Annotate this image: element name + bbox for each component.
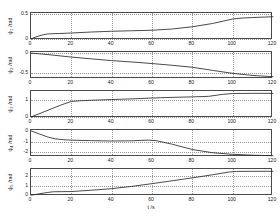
y-tick-label: 0 xyxy=(16,127,28,133)
y-axis-label-unit: /rad xyxy=(7,95,13,106)
data-series-psi4 xyxy=(31,130,273,157)
x-tick-label: 0 xyxy=(29,196,32,202)
y-tick-label: -0.5 xyxy=(16,69,28,75)
y-axis-label-psi1: ψ1 /rad xyxy=(7,17,14,34)
y-tick-label: 1 xyxy=(16,182,28,188)
x-tick-label: 80 xyxy=(188,196,194,202)
x-tick-label: 40 xyxy=(108,196,114,202)
y-tick-label: -2 xyxy=(16,148,28,154)
plot-area-psi3 xyxy=(30,90,272,117)
plot-area-psi2 xyxy=(30,51,272,78)
y-tick-label: 1 xyxy=(16,96,28,102)
x-tick-label: 100 xyxy=(227,196,236,202)
subplot-psi5: ψ5 /rad020406080100120012 xyxy=(0,158,280,207)
data-series-psi1 xyxy=(31,13,273,40)
x-tick-label: 20 xyxy=(67,196,73,202)
y-tick-label: 0 xyxy=(16,191,28,197)
data-series-psi3 xyxy=(31,91,273,118)
y-axis-label-psi2: ψ2 /rad xyxy=(7,56,14,73)
plot-area-psi4 xyxy=(30,129,272,156)
y-axis-label-psi4: ψ4 /rad xyxy=(7,134,14,151)
y-tick-label: 2 xyxy=(16,172,28,178)
y-axis-label-unit: /rad xyxy=(7,17,13,28)
plot-area-psi1 xyxy=(30,12,272,39)
y-axis-label-symbol: ψ xyxy=(7,147,13,151)
data-series-psi5 xyxy=(31,169,273,196)
y-axis-label-symbol: ψ xyxy=(7,108,13,112)
figure-canvas: ψ1 /rad02040608010012000.5ψ2 /rad0204060… xyxy=(0,0,280,224)
y-axis-label-symbol: ψ xyxy=(7,30,13,34)
y-axis-label-unit: /rad xyxy=(7,173,13,184)
y-axis-label-symbol: ψ xyxy=(7,186,13,190)
y-tick-label: 0 xyxy=(16,49,28,55)
y-axis-label-unit: /rad xyxy=(7,134,13,145)
y-axis-label-unit: /rad xyxy=(7,56,13,67)
y-tick-label: 0.5 xyxy=(16,10,28,16)
y-tick-label: -1 xyxy=(16,138,28,144)
data-series-psi2 xyxy=(31,52,273,79)
x-axis-label: t /s xyxy=(147,204,154,210)
plot-area-psi5 xyxy=(30,168,272,195)
x-tick-label: 120 xyxy=(268,196,277,202)
y-axis-label-symbol: ψ xyxy=(7,69,13,73)
y-axis-label-psi3: ψ3 /rad xyxy=(7,95,14,112)
y-axis-label-psi5: ψ5 /rad xyxy=(7,173,14,190)
x-tick-label: 60 xyxy=(148,196,154,202)
